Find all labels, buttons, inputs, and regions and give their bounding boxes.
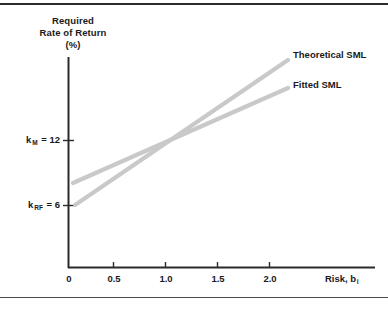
x-tick-label-0: 0 [54,273,84,284]
y-axis-title: Required Rate of Return (%) [18,15,128,51]
x-tick-label-1-0: 1.0 [151,273,181,284]
x-axis-title-subscript: i [356,278,358,285]
y-tick-subscript-km: M [31,139,38,146]
y-axis-title-line2: Rate of Return [40,27,107,38]
x-axis-title-text: Risk, b [325,273,356,284]
x-tick-label-2-0: 2.0 [255,273,285,284]
y-axis-title-line1: Required [52,15,94,26]
series-label-theoretical-sml: Theoretical SML [293,49,366,60]
y-tick-value-krf: 6 [55,199,60,210]
x-tick-label-0-5: 0.5 [99,273,129,284]
figure-container: Required Rate of Return (%) kM = 12 kRF … [0,0,388,311]
series-line-theoretical-sml [75,60,288,205]
y-axis-title-units: (%) [18,39,128,51]
x-axis-title: Risk, bi [325,273,358,284]
y-tick-subscript-krf: RF [33,204,44,211]
y-tick-value-km: 12 [49,134,60,145]
y-tick-label-km: kM = 12 [8,134,60,145]
x-tick-label-1-5: 1.5 [203,273,233,284]
y-tick-label-krf: kRF = 6 [8,199,60,210]
series-label-fitted-sml: Fitted SML [293,79,342,90]
